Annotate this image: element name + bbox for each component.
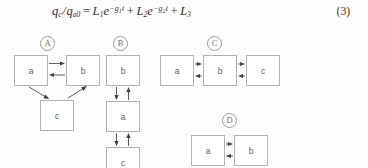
eq-term3-subscript: 3 xyxy=(187,10,191,19)
diagram-a-node-a-label: a xyxy=(29,66,34,76)
diagram-d-node-b: b xyxy=(234,135,268,166)
diagram-d: D a b xyxy=(186,113,286,168)
diagram-c-node-a: a xyxy=(160,55,194,86)
diagram-a-edge-a-to-b xyxy=(49,61,65,65)
diagram-a-edge-b-to-a xyxy=(49,73,65,77)
diagram-b-edge-a-to-b xyxy=(126,87,130,100)
diagram-d-edge-a-to-b xyxy=(226,142,233,146)
diagram-c-label: C xyxy=(207,36,222,51)
eq-equals-sign: = xyxy=(80,4,92,18)
diagram-b-edge-b-to-a xyxy=(114,87,118,100)
diagram-c-node-b: b xyxy=(203,55,237,86)
diagram-c-node-b-label: b xyxy=(218,66,223,76)
diagram-b: B b a c xyxy=(98,36,160,168)
diagram-b-node-b: b xyxy=(106,55,140,86)
diagram-a-edge-c-to-b xyxy=(68,86,87,98)
equation-expression: qc/qa0=L1e−g1t+L2e−g2t+L3 xyxy=(52,4,191,19)
diagram-d-edge-b-to-a xyxy=(226,154,233,158)
diagram-a-node-c: c xyxy=(40,100,74,131)
diagram-c: C a b c xyxy=(155,36,275,96)
eq-term1-exponent: −g xyxy=(109,4,119,13)
figure-page: qc/qa0=L1e−g1t+L2e−g2t+L3 (3) A a b c xyxy=(0,0,368,168)
diagram-a-node-b: b xyxy=(66,55,100,86)
diagram-c-edge-c-to-b xyxy=(238,74,245,78)
eq-plus-sign-1: + xyxy=(124,4,136,18)
diagram-d-node-a-label: a xyxy=(206,146,211,156)
diagram-d-node-a: a xyxy=(191,135,225,166)
diagram-a-node-b-label: b xyxy=(81,66,86,76)
diagram-b-edge-c-to-a xyxy=(126,133,130,146)
diagram-a: A a b c xyxy=(0,36,100,131)
diagram-b-label: B xyxy=(113,36,128,51)
eq-plus-sign-2: + xyxy=(168,4,180,18)
eq-term2-exponent: −g xyxy=(153,4,163,13)
diagram-b-node-b-label: b xyxy=(121,66,126,76)
diagram-c-node-c: c xyxy=(246,55,280,86)
diagram-c-edge-b-to-c xyxy=(238,62,245,66)
diagram-c-edge-b-to-a xyxy=(195,74,202,78)
diagram-c-node-a-label: a xyxy=(175,66,180,76)
diagram-d-node-b-label: b xyxy=(249,146,254,156)
equation-number: (3) xyxy=(337,5,350,17)
eq-term1-coefficient: L xyxy=(93,4,100,18)
diagram-a-node-a: a xyxy=(14,55,48,86)
diagram-a-label: A xyxy=(40,36,55,51)
diagram-b-node-c-label: c xyxy=(121,158,125,168)
equation-row: qc/qa0=L1e−g1t+L2e−g2t+L3 (3) xyxy=(0,4,368,26)
diagram-b-node-a-label: a xyxy=(121,112,126,122)
diagram-b-edge-a-to-c xyxy=(114,133,118,146)
diagram-b-node-c: c xyxy=(106,147,140,168)
diagram-c-edge-a-to-b xyxy=(195,62,202,66)
diagram-a-edge-a-to-c xyxy=(29,87,49,99)
diagram-c-node-c-label: c xyxy=(261,66,265,76)
diagram-a-node-c-label: c xyxy=(55,111,59,121)
diagram-b-node-a: a xyxy=(106,101,140,132)
diagram-d-label: D xyxy=(222,113,237,128)
